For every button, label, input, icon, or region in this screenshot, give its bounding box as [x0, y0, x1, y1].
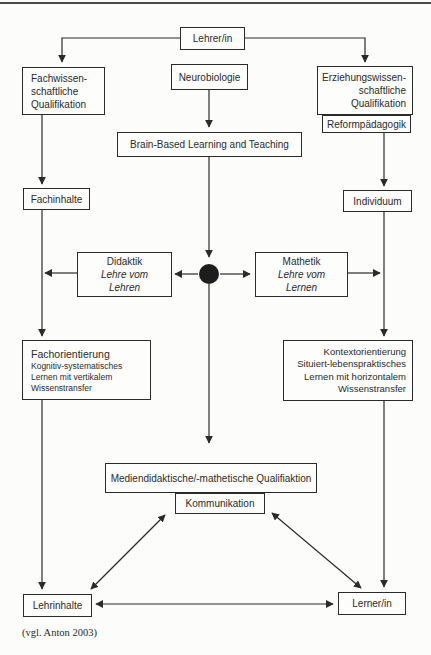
node-brain-based-learning: Brain-Based Learning and Teaching [117, 132, 302, 157]
node-fachorientierung-title: Fachorientierung [31, 347, 110, 361]
node-erziehung-line1: Erziehungswissen- [322, 71, 406, 84]
node-mathetik-title: Mathetik [283, 255, 321, 268]
node-reformpaedagogik: Reformpädagogik [322, 115, 411, 133]
node-fachinhalte: Fachinhalte [23, 188, 90, 210]
node-kontextorientierung-line1: Situiert-lebenspraktisches [297, 358, 406, 371]
node-kommunikation: Kommunikation [175, 493, 265, 514]
node-mathetik-sub2: Lernen [286, 281, 317, 294]
node-didaktik: Didaktik Lehre vom Lehren [77, 252, 172, 297]
node-lehrinhalte: Lehrinhalte [23, 594, 92, 617]
node-kontextorientierung: Kontextorientierung Situiert-lebensprakt… [283, 340, 413, 401]
node-lehrer-in: Lehrer/in [180, 27, 245, 50]
node-fachinhalte-label: Fachinhalte [31, 193, 83, 206]
node-reformpaedagogik-label: Reformpädagogik [327, 118, 406, 131]
node-fachwissen-line2: schaftliche [31, 85, 78, 98]
arrow-kommunikation-lerner [272, 513, 361, 588]
node-brain-based-label: Brain-Based Learning and Teaching [130, 138, 289, 151]
node-mathetik-sub1: Lehre vom [278, 268, 325, 281]
node-fachwissenschaftliche-qualifikation: Fachwissen- schaftliche Qualifikation [22, 67, 105, 115]
node-lerner-in-label: Lerner/in [352, 597, 391, 610]
node-fachwissen-line3: Qualifikation [31, 98, 86, 111]
node-erziehung-line2: schaftliche [359, 84, 406, 97]
node-didaktik-sub1: Lehre vom [101, 268, 148, 281]
node-fachwissen-line1: Fachwissen- [31, 72, 87, 85]
node-erziehungswissenschaftliche-qualifikation: Erziehungswissen- schaftliche Qualifikat… [317, 66, 413, 115]
node-fachorientierung-line2: Lernen mit vertikalem [31, 372, 112, 383]
node-didaktik-title: Didaktik [107, 255, 143, 268]
node-fachorientierung: Fachorientierung Kognitiv-systematisches… [22, 340, 151, 400]
node-individuum: Individuum [343, 190, 412, 212]
node-fachorientierung-line1: Kognitiv-systematisches [31, 361, 122, 372]
node-individuum-label: Individuum [353, 195, 401, 208]
document-page: Lehrer/in Fachwissen- schaftliche Qualif… [0, 0, 431, 655]
arrow-kommunikation-lehrinhalte [91, 515, 165, 589]
node-mediendidaktik-label: Mediendidaktische/-mathetische Qualifiak… [111, 472, 312, 485]
arrow-lehrer-to-erziehung [245, 38, 365, 62]
node-kontextorientierung-title: Kontextorientierung [324, 346, 406, 359]
node-lehrer-in-label: Lehrer/in [193, 32, 232, 45]
node-neurobiologie-label: Neurobiologie [179, 71, 241, 84]
arrow-lehrer-to-fachwissen [62, 38, 180, 62]
node-erziehung-line3: Qualifikation [351, 97, 406, 110]
hub-dot [199, 264, 219, 284]
node-mediendidaktische-qualifikation: Mediendidaktische/-mathetische Qualifiak… [105, 463, 317, 493]
node-lehrinhalte-label: Lehrinhalte [33, 599, 82, 612]
node-fachorientierung-line3: Wissenstransfer [31, 383, 92, 394]
node-didaktik-sub2: Lehren [109, 281, 140, 294]
node-kontextorientierung-line3: Wissenstransfer [338, 383, 406, 396]
node-kontextorientierung-line2: Lernen mit horizontalem [304, 371, 406, 384]
node-kommunikation-label: Kommunikation [186, 497, 255, 510]
node-lerner-in: Lerner/in [338, 592, 406, 615]
node-mathetik: Mathetik Lehre vom Lernen [255, 252, 348, 297]
node-neurobiologie: Neurobiologie [171, 64, 248, 90]
figure-caption: (vgl. Anton 2003) [22, 627, 97, 638]
